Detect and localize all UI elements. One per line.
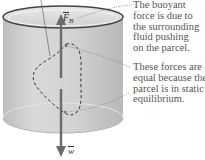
annotation-line: equilibrium.	[133, 94, 205, 105]
annotation-equilibrium: These forces are equal because the parce…	[133, 62, 205, 105]
weight-symbol: w	[68, 146, 74, 156]
parcel-top-dot	[65, 45, 67, 47]
annotation-line: equal because the	[133, 73, 205, 84]
annotation-line: force is due to	[133, 11, 199, 22]
annotation-buoyant-force: The buoyant force is due to the surround…	[133, 0, 199, 54]
buoyant-force-label: FB	[63, 12, 74, 25]
buoyancy-diagram: FB w The buoyant force is due to the sur…	[0, 0, 205, 160]
parcel-bottom-dot	[64, 111, 66, 113]
buoyant-force-subscript: B	[69, 17, 74, 25]
annotation-line: on the parcel.	[133, 43, 199, 54]
fluid-cylinder	[3, 6, 123, 133]
weight-label: w	[68, 146, 74, 156]
buoyant-force-symbol: F	[63, 12, 69, 23]
